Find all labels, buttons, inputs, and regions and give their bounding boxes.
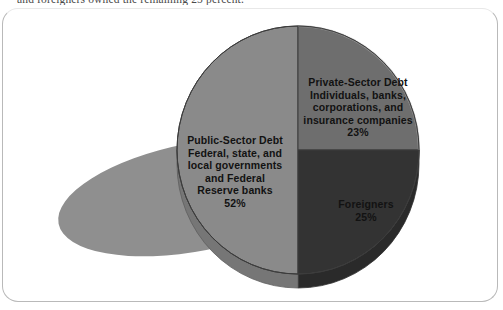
slice-desc-public-line-3: and Federal	[205, 172, 265, 184]
slice-label-public-sector-debt: Public-Sector Debt Federal, state, and l…	[170, 134, 300, 210]
slice-label-private-sector-debt: Private-Sector Debt Individuals, banks, …	[296, 76, 420, 139]
slice-value-foreigners: 25%	[318, 211, 414, 224]
slice-title-foreigners: Foreigners	[338, 198, 393, 210]
slice-desc-private-line-1: Individuals, banks,	[310, 89, 406, 101]
pie-chart: Private-Sector Debt Individuals, banks, …	[0, 0, 503, 310]
slice-desc-public-line-2: local governments	[188, 159, 282, 171]
slice-title-private: Private-Sector Debt	[308, 76, 407, 88]
slice-value-private: 23%	[296, 126, 420, 139]
slice-title-public: Public-Sector Debt	[187, 134, 283, 146]
slice-desc-private-line-2: corporations, and	[313, 101, 403, 113]
slice-desc-public-line-4: Reserve banks	[197, 184, 272, 196]
slice-desc-public-line-1: Federal, state, and	[188, 147, 282, 159]
slice-value-public: 52%	[170, 197, 300, 210]
slice-label-foreigners: Foreigners 25%	[318, 198, 414, 223]
slice-desc-private-line-3: insurance companies	[303, 114, 412, 126]
